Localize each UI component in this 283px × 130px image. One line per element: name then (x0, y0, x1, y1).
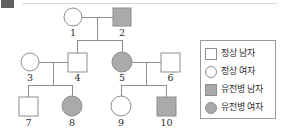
legend-item-normal-female: 정상 여자 (205, 63, 272, 80)
legend-label-normal-female: 정상 여자 (221, 66, 255, 77)
generation-2: 3 4 5 6 (21, 52, 180, 83)
individual-9-label: 9 (118, 117, 124, 128)
legend-label-affected-female: 유전병 여자 (221, 102, 263, 113)
individual-4-label: 4 (74, 72, 80, 83)
individual-1-symbol-circle[interactable] (64, 8, 82, 26)
individual-3-symbol-circle[interactable] (21, 53, 39, 71)
pedigree-figure: 1 2 3 4 5 6 7 8 9 10 (0, 0, 283, 130)
individual-2-symbol-square[interactable] (113, 8, 131, 26)
legend-item-affected-female: 유전병 여자 (205, 99, 272, 116)
individual-5-symbol-circle[interactable] (112, 52, 132, 72)
individual-2-label: 2 (119, 27, 125, 38)
legend-item-affected-male: 유전병 남자 (205, 81, 272, 98)
individual-7-label: 7 (25, 117, 31, 128)
individual-8-symbol-circle[interactable] (62, 96, 82, 116)
legend-label-normal-male: 정상 남자 (221, 48, 255, 59)
individual-5-label: 5 (119, 72, 125, 83)
pedigree-connector-lines (29, 17, 167, 97)
affected-male-icon (205, 84, 217, 96)
individual-10-label: 10 (160, 117, 172, 128)
individual-4-symbol-square[interactable] (68, 53, 87, 72)
legend-item-normal-male: 정상 남자 (205, 45, 272, 62)
individual-6-label: 6 (167, 72, 173, 83)
individual-7-symbol-square[interactable] (19, 97, 38, 116)
legend-label-affected-male: 유전병 남자 (221, 84, 263, 95)
individual-6-symbol-square[interactable] (161, 53, 180, 72)
individual-3-label: 3 (27, 72, 33, 83)
individual-9-symbol-circle[interactable] (111, 96, 131, 116)
individual-10-symbol-square[interactable] (157, 97, 176, 116)
normal-female-icon (205, 66, 217, 78)
individual-1-label: 1 (70, 27, 76, 38)
normal-male-icon (205, 48, 217, 60)
individual-8-label: 8 (69, 117, 75, 128)
affected-female-icon (205, 102, 217, 114)
generation-3: 7 8 9 10 (19, 96, 176, 128)
legend-box: 정상 남자 정상 여자 유전병 남자 유전병 여자 (200, 40, 276, 119)
